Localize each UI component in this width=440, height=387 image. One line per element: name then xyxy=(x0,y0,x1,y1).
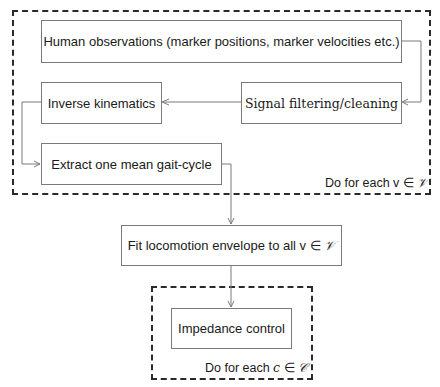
fit-envelope-box: Fit locomotion envelope to all v ∈ 𝒱 xyxy=(121,225,342,266)
fit-set: 𝒱 xyxy=(324,238,335,254)
inner-loop-set: 𝒞 xyxy=(298,360,307,375)
inner-loop-in: ∈ xyxy=(280,361,298,375)
impedance-control-box: Impedance control xyxy=(171,308,292,349)
inner-loop-text: Do for each xyxy=(205,361,273,375)
extract-gait-cycle-box: Extract one mean gait-cycle xyxy=(41,143,222,185)
outer-loop-label: Do for each v ∈ 𝒱 xyxy=(325,175,427,191)
fit-label: Fit locomotion envelope to all v ∈ xyxy=(128,238,321,253)
inverse-kinematics-label: Inverse kinematics xyxy=(48,96,156,111)
observations-box: Human observations (marker positions, ma… xyxy=(41,20,402,63)
extract-label: Extract one mean gait-cycle xyxy=(51,157,211,172)
impedance-label: Impedance control xyxy=(178,321,285,336)
outer-loop-set: 𝒱 xyxy=(417,175,427,190)
filtering-box: Signal filtering/cleaning xyxy=(241,82,402,124)
inverse-kinematics-box: Inverse kinematics xyxy=(41,82,162,124)
filtering-label: Signal filtering/cleaning xyxy=(245,96,398,111)
inner-loop-label: Do for each c ∈ 𝒞 xyxy=(205,360,307,376)
observations-label: Human observations (marker positions, ma… xyxy=(43,34,399,49)
outer-loop-text: Do for each v ∈ xyxy=(325,176,417,190)
